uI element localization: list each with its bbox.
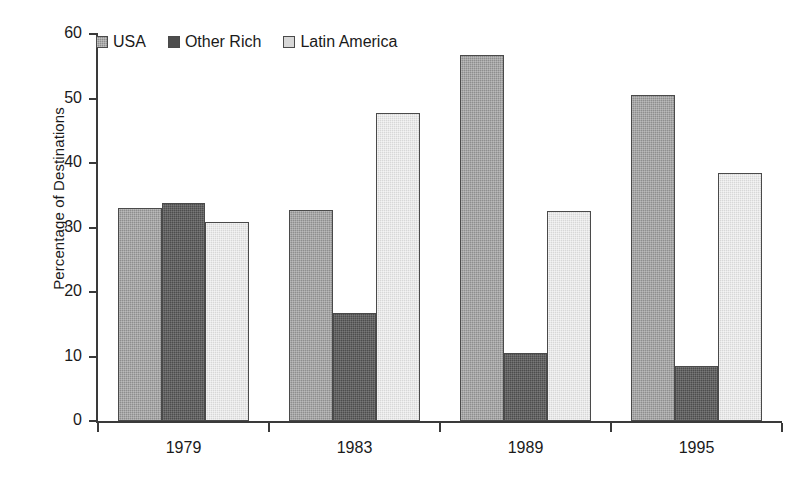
x-category-label: 1995	[611, 440, 782, 456]
y-tick-label-wrap: 30	[30, 219, 82, 235]
bar	[718, 173, 762, 421]
y-tick-label-wrap: 40	[30, 154, 82, 170]
latin-america-swatch-icon	[283, 36, 295, 48]
x-tick-mark	[781, 423, 783, 432]
y-tick-label: 40	[36, 154, 82, 170]
x-category-label: 1983	[269, 440, 440, 456]
y-tick-label-wrap: 60	[30, 25, 82, 41]
bar	[675, 366, 719, 421]
y-tick-label-wrap: 20	[30, 283, 82, 299]
x-tick-mark	[268, 423, 270, 432]
y-tick-label: 0	[36, 412, 82, 428]
x-category-label: 1979	[98, 440, 269, 456]
bar	[289, 210, 333, 421]
y-axis-line	[96, 34, 98, 423]
chart-legend: USAOther RichLatin America	[96, 31, 397, 53]
bar	[547, 211, 591, 421]
y-tick-label: 10	[36, 348, 82, 364]
bar	[376, 113, 420, 421]
y-tick-label-wrap: 10	[30, 348, 82, 364]
bar	[118, 208, 162, 421]
bar	[504, 353, 548, 421]
y-tick-label: 30	[36, 219, 82, 235]
x-tick-mark	[610, 423, 612, 432]
usa-swatch-icon	[96, 36, 108, 48]
legend-item: Other Rich	[168, 34, 261, 50]
bar	[333, 313, 377, 421]
y-tick-label-wrap: 0	[30, 412, 82, 428]
bar	[631, 95, 675, 421]
legend-item: USA	[96, 34, 146, 50]
y-tick-label: 60	[36, 25, 82, 41]
legend-item-label: Other Rich	[185, 34, 261, 50]
bar-chart: Percentage of Destinations 0102030405060…	[0, 0, 807, 483]
legend-item: Latin America	[283, 34, 397, 50]
bar	[460, 55, 504, 421]
other-rich-swatch-icon	[168, 36, 180, 48]
bar	[205, 222, 249, 421]
legend-item-label: Latin America	[300, 34, 397, 50]
x-tick-mark	[97, 423, 99, 432]
y-tick-label: 50	[36, 90, 82, 106]
y-tick-label-wrap: 50	[30, 90, 82, 106]
x-tick-mark	[439, 423, 441, 432]
x-category-label: 1989	[440, 440, 611, 456]
bar	[162, 203, 206, 421]
y-tick-label: 20	[36, 283, 82, 299]
legend-item-label: USA	[113, 34, 146, 50]
